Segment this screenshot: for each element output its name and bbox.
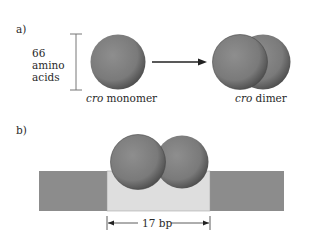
cro-monomer-sphere <box>91 35 146 90</box>
panel-b-label: b) <box>16 124 27 136</box>
cro-dimer-spheres <box>213 35 291 90</box>
monomer-caption-italic: cro <box>86 92 103 104</box>
dimer-caption: cro dimer <box>235 92 287 104</box>
arrow-icon <box>152 59 207 66</box>
cro-diagram <box>0 0 318 240</box>
span-label: 17 bp <box>142 217 172 229</box>
size-label-66: 66 <box>32 47 45 59</box>
dimer-caption-italic: cro <box>235 92 252 104</box>
panel-a-label: a) <box>16 23 26 35</box>
monomer-caption-text: monomer <box>103 92 157 104</box>
dimer-caption-text: dimer <box>252 92 287 104</box>
monomer-caption: cro monomer <box>86 92 157 104</box>
size-label-acids: acids <box>32 71 60 83</box>
size-label-amino: amino <box>32 59 65 71</box>
scale-bar <box>70 34 82 90</box>
